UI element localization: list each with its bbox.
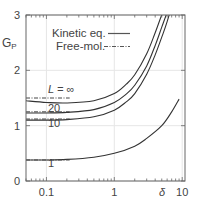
curve-label: 20 [48, 102, 60, 114]
curve-label: L = ∞ [48, 83, 74, 95]
x-axis-label: δ [159, 186, 166, 198]
curve-label: 10 [48, 117, 60, 129]
y-tick-label: 3 [14, 9, 20, 21]
legend-label-free-mol: Free-mol. [56, 40, 105, 52]
y-tick-label: 0 [14, 175, 20, 187]
curves [26, 0, 179, 160]
curve-20 [26, 0, 174, 113]
x-tick-label: 0.1 [39, 186, 54, 198]
curve-label: 1 [48, 157, 54, 169]
legend-label-kinetic: Kinetic eq. [52, 27, 106, 39]
x-tick-label: 10 [176, 186, 188, 198]
y-tick-label: 1 [14, 120, 20, 132]
x-tick-label: 1 [111, 186, 117, 198]
chart: 0.11100123 L = ∞20101 GP δ Kinetic eq. F… [0, 0, 199, 208]
y-tick-label: 2 [14, 64, 20, 76]
legend: Kinetic eq. Free-mol. [52, 27, 130, 52]
y-axis-label: GP [2, 36, 17, 51]
